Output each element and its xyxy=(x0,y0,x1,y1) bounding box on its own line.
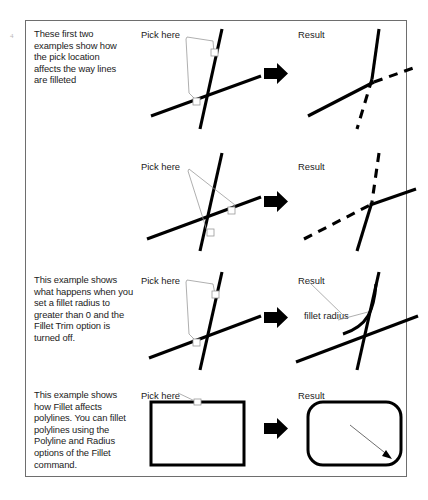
row-1-source-diagram xyxy=(131,21,276,141)
kept-steep-upper xyxy=(372,29,379,79)
row-3-description: This example shows what happens when you… xyxy=(34,274,134,344)
page-edge-artifact: 4 xyxy=(10,32,14,40)
pick-marker-steep xyxy=(211,49,218,56)
row-1-arrow-icon xyxy=(264,63,288,85)
row-1-result-diagram xyxy=(288,21,428,141)
row-4-description: This example shows how Fillet affects po… xyxy=(34,389,134,470)
figure-page: 4 These first two examples show how the … xyxy=(0,0,428,500)
row-3-arrow-icon xyxy=(264,307,288,329)
result-leader xyxy=(308,281,344,316)
fillet-arc xyxy=(343,284,376,334)
example-row-3: This example shows what happens when you… xyxy=(26,254,408,376)
steep-line xyxy=(200,29,222,129)
example-row-2: Pick here Result xyxy=(26,139,408,259)
radius-leader xyxy=(338,312,368,320)
row-4-source-diagram xyxy=(131,371,276,478)
pick-leader-upper xyxy=(187,37,214,53)
row-4-result-diagram xyxy=(288,371,428,478)
kept-shallow-left xyxy=(308,82,374,116)
steep-line xyxy=(200,272,222,370)
pick-leader-lower xyxy=(186,37,197,101)
pick-leader-lower xyxy=(186,280,197,342)
row-2-result-diagram xyxy=(288,139,428,259)
figure-frame: These first two examples show how the pi… xyxy=(25,20,407,477)
shallow-line xyxy=(296,316,418,362)
trimmed-shallow-left xyxy=(304,205,370,239)
trimmed-shallow-right xyxy=(374,67,416,82)
row-1-description: These first two examples show how the pi… xyxy=(34,28,122,86)
kept-shallow-right xyxy=(370,189,416,205)
pick-marker-shallow-right xyxy=(228,207,235,214)
polyline-rectangle xyxy=(151,402,244,465)
pick-marker-top-edge xyxy=(194,399,201,405)
pick-marker-shallow xyxy=(193,339,200,346)
example-row-1: These first two examples show how the pi… xyxy=(26,21,408,141)
pick-leader-right xyxy=(189,169,235,211)
row-4-arrow-icon xyxy=(264,418,288,440)
row-3-result-diagram xyxy=(288,254,428,376)
example-row-4: This example shows how Fillet affects po… xyxy=(26,371,408,478)
pick-leader-upper xyxy=(187,280,215,294)
pick-marker-shallow xyxy=(193,98,200,105)
trimmed-steep-upper xyxy=(372,153,379,202)
pick-marker-steep-lower xyxy=(207,229,214,236)
row-3-source-diagram xyxy=(131,254,276,376)
shallow-line xyxy=(151,76,261,116)
row-2-source-diagram xyxy=(131,139,276,259)
pick-marker-steep xyxy=(212,291,219,298)
row-2-arrow-icon xyxy=(264,191,288,213)
